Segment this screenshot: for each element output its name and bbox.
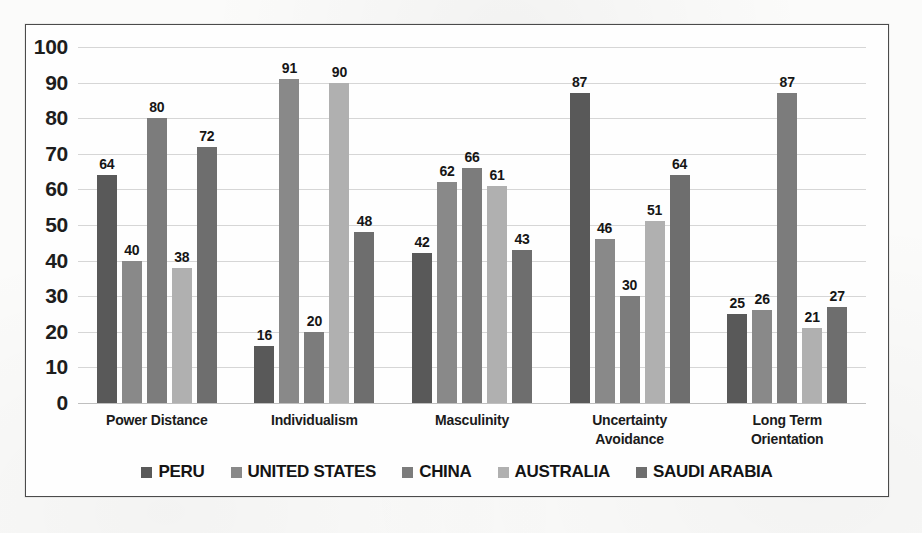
chart-legend: PERUUNITED STATESCHINAAUSTRALIASAUDI ARA…: [26, 462, 888, 482]
bar[interactable]: [645, 221, 665, 403]
y-axis-tick-label: 50: [45, 213, 68, 237]
bar[interactable]: [595, 239, 615, 403]
bar-column[interactable]: 30: [620, 47, 640, 403]
bar-column[interactable]: 21: [802, 47, 822, 403]
bar-column[interactable]: 16: [254, 47, 274, 403]
bar[interactable]: [172, 268, 192, 403]
bar-value-label: 43: [514, 231, 529, 247]
bar-value-label: 42: [414, 234, 429, 250]
bar[interactable]: [827, 307, 847, 403]
bar-value-label: 16: [257, 327, 272, 343]
x-axis-category-label: Masculinity: [393, 411, 551, 449]
bar-column[interactable]: 26: [752, 47, 772, 403]
bar[interactable]: [437, 182, 457, 403]
legend-item[interactable]: SAUDI ARABIA: [636, 462, 773, 482]
bar-column[interactable]: 64: [670, 47, 690, 403]
bar-column[interactable]: 90: [329, 47, 349, 403]
bar[interactable]: [254, 346, 274, 403]
bar-value-label: 91: [282, 60, 297, 76]
bar-column[interactable]: 40: [122, 47, 142, 403]
bar[interactable]: [197, 147, 217, 403]
bar[interactable]: [512, 250, 532, 403]
bar-column[interactable]: 64: [97, 47, 117, 403]
x-axis-category-label: UncertaintyAvoidance: [551, 411, 709, 449]
bar-value-label: 51: [647, 202, 662, 218]
bar-value-label: 25: [730, 295, 745, 311]
bar[interactable]: [570, 93, 590, 403]
bar[interactable]: [727, 314, 747, 403]
legend-item[interactable]: AUSTRALIA: [498, 462, 611, 482]
bar[interactable]: [354, 232, 374, 403]
bar-value-label: 80: [149, 99, 164, 115]
y-axis-tick-label: 40: [45, 249, 68, 273]
bar[interactable]: [777, 93, 797, 403]
bar-value-label: 40: [124, 242, 139, 258]
bar-group: 1691209048: [236, 47, 394, 403]
bar-value-label: 87: [780, 74, 795, 90]
legend-item[interactable]: PERU: [141, 462, 204, 482]
x-axis-category-labels: Power DistanceIndividualismMasculinityUn…: [78, 411, 866, 449]
bar-column[interactable]: 25: [727, 47, 747, 403]
x-axis-category-label-line: Orientation: [708, 430, 866, 449]
bar-column[interactable]: 66: [462, 47, 482, 403]
bar-column[interactable]: 43: [512, 47, 532, 403]
bar[interactable]: [122, 261, 142, 403]
gridline: [78, 403, 866, 404]
bar[interactable]: [802, 328, 822, 403]
legend-label: CHINA: [419, 462, 471, 482]
bar-value-label: 30: [622, 277, 637, 293]
bar-column[interactable]: 91: [279, 47, 299, 403]
bar-column[interactable]: 80: [147, 47, 167, 403]
bar-column[interactable]: 72: [197, 47, 217, 403]
legend-label: SAUDI ARABIA: [653, 462, 773, 482]
legend-label: AUSTRALIA: [515, 462, 611, 482]
x-axis-category-label-line: Avoidance: [551, 430, 709, 449]
bar[interactable]: [620, 296, 640, 403]
y-axis-tick-label: 60: [45, 177, 68, 201]
bar[interactable]: [279, 79, 299, 403]
bar-column[interactable]: 87: [570, 47, 590, 403]
bar-column[interactable]: 38: [172, 47, 192, 403]
bar[interactable]: [412, 253, 432, 403]
legend-swatch-icon: [498, 467, 509, 478]
y-axis-tick-label: 80: [45, 106, 68, 130]
y-axis-tick-label: 20: [45, 320, 68, 344]
x-axis-category-label: Long TermOrientation: [708, 411, 866, 449]
legend-swatch-icon: [402, 467, 413, 478]
bar-column[interactable]: 42: [412, 47, 432, 403]
legend-item[interactable]: UNITED STATES: [231, 462, 377, 482]
x-axis-category-label-line: Long Term: [708, 411, 866, 430]
chart-frame: 1009080706050403020100 64408038721691209…: [25, 24, 889, 497]
bar-column[interactable]: 20: [304, 47, 324, 403]
legend-label: PERU: [158, 462, 204, 482]
bar-column[interactable]: 87: [777, 47, 797, 403]
bar-group-bars: 4262666143: [393, 47, 551, 403]
y-axis-tick-label: 100: [34, 35, 68, 59]
bar-group: 6440803872: [78, 47, 236, 403]
y-axis-tick-label: 90: [45, 71, 68, 95]
bar-column[interactable]: 46: [595, 47, 615, 403]
bar-value-label: 72: [199, 128, 214, 144]
bar-column[interactable]: 62: [437, 47, 457, 403]
bar-column[interactable]: 61: [487, 47, 507, 403]
bar[interactable]: [329, 83, 349, 403]
bar[interactable]: [462, 168, 482, 403]
bar-column[interactable]: 27: [827, 47, 847, 403]
bar-column[interactable]: 51: [645, 47, 665, 403]
legend-swatch-icon: [141, 467, 152, 478]
bar-column[interactable]: 48: [354, 47, 374, 403]
bar-value-label: 66: [464, 149, 479, 165]
bar-value-label: 64: [672, 156, 687, 172]
bar-group: 8746305164: [551, 47, 709, 403]
bar[interactable]: [487, 186, 507, 403]
bar[interactable]: [97, 175, 117, 403]
legend-item[interactable]: CHINA: [402, 462, 471, 482]
bar-group-bars: 6440803872: [78, 47, 236, 403]
bar-groups: 6440803872169120904842626661438746305164…: [78, 47, 866, 403]
bar[interactable]: [147, 118, 167, 403]
bar-value-label: 61: [489, 167, 504, 183]
bar[interactable]: [670, 175, 690, 403]
bar[interactable]: [752, 310, 772, 403]
bar[interactable]: [304, 332, 324, 403]
legend-swatch-icon: [231, 467, 242, 478]
